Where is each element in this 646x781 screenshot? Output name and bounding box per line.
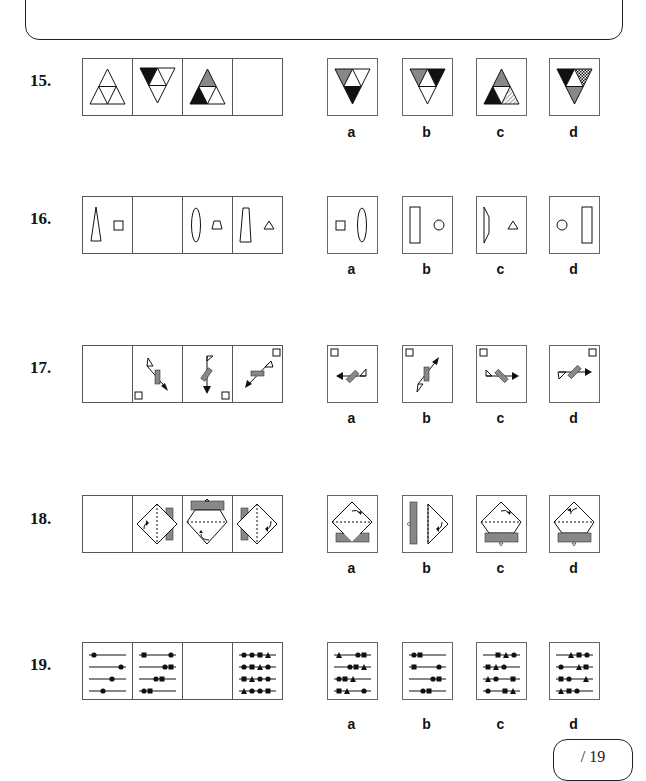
folded-diamond-figure-icon [133, 496, 182, 552]
option-a[interactable] [327, 495, 378, 553]
option-d[interactable] [549, 642, 600, 700]
option-label: d [549, 410, 598, 426]
question-number: 15. [30, 71, 51, 91]
sequence-cell [133, 643, 183, 699]
rotating-arrow-figure-icon [233, 346, 282, 402]
rotating-arrow-figure-icon [477, 346, 526, 402]
rotating-arrow-figure-icon [183, 346, 232, 402]
question-number: 17. [30, 358, 51, 378]
bead-lines-icon [477, 643, 526, 699]
option-b[interactable] [402, 642, 453, 700]
option-c[interactable] [476, 642, 527, 700]
sequence-cell [183, 346, 233, 402]
folded-diamond-figure-icon [403, 496, 452, 552]
option-a[interactable] [327, 58, 378, 116]
folded-diamond-figure-icon [477, 496, 526, 552]
triangle-square-icon [83, 197, 132, 253]
question-number: 19. [30, 655, 51, 675]
half-trapezoid-triangle-icon [477, 197, 526, 253]
answer-blank-cell [83, 346, 133, 402]
triangle-figure-icon [83, 59, 132, 115]
question-number: 18. [30, 509, 51, 529]
square-ellipse-icon [328, 197, 377, 253]
option-label: c [476, 261, 525, 277]
answer-blank-cell [133, 197, 183, 253]
option-label: b [402, 410, 451, 426]
option-label: a [327, 716, 376, 732]
option-c[interactable] [476, 58, 527, 116]
option-label: d [549, 560, 598, 576]
option-label: a [327, 410, 376, 426]
sequence-strip [82, 345, 283, 403]
option-label: b [402, 716, 451, 732]
answer-blank-cell [233, 59, 282, 115]
rotating-arrow-figure-icon [550, 346, 599, 402]
sequence-cell [133, 59, 183, 115]
option-a[interactable] [327, 196, 378, 254]
option-a[interactable] [327, 345, 378, 403]
score-text: / 19 [554, 748, 632, 766]
option-a[interactable] [327, 642, 378, 700]
trapezoid-triangle-icon [233, 197, 282, 253]
rotating-arrow-figure-icon [328, 346, 377, 402]
sequence-cell [133, 346, 183, 402]
option-d[interactable] [549, 495, 600, 553]
sequence-strip [82, 642, 283, 700]
folded-diamond-figure-icon [233, 496, 282, 552]
folded-diamond-figure-icon [328, 496, 377, 552]
answer-blank-cell [83, 496, 133, 552]
option-d[interactable] [549, 345, 600, 403]
folded-diamond-figure-icon [183, 496, 232, 552]
question-number: 16. [30, 209, 51, 229]
option-label: d [549, 124, 598, 140]
sequence-strip [82, 495, 283, 553]
answer-blank-cell [183, 643, 233, 699]
rectangle-circle-icon [403, 197, 452, 253]
option-label: d [549, 716, 598, 732]
option-label: b [402, 124, 451, 140]
option-b[interactable] [402, 196, 453, 254]
bead-lines-icon [83, 643, 132, 699]
option-label: c [476, 560, 525, 576]
option-c[interactable] [476, 345, 527, 403]
folded-diamond-figure-icon [550, 496, 599, 552]
circle-rectangle-icon [550, 197, 599, 253]
sequence-cell [83, 59, 133, 115]
option-b[interactable] [402, 495, 453, 553]
bead-lines-icon [233, 643, 282, 699]
sequence-cell [233, 346, 282, 402]
option-label: b [402, 560, 451, 576]
option-label: a [327, 560, 376, 576]
option-b[interactable] [402, 345, 453, 403]
inverted-triangle-figure-icon [328, 59, 377, 115]
triangle-figure-icon [477, 59, 526, 115]
option-d[interactable] [549, 58, 600, 116]
rotating-arrow-figure-icon [403, 346, 452, 402]
option-label: a [327, 261, 376, 277]
sequence-strip [82, 196, 283, 254]
bead-lines-icon [328, 643, 377, 699]
triangle-figure-icon [183, 59, 232, 115]
option-label: d [549, 261, 598, 277]
sequence-cell [183, 496, 233, 552]
option-d[interactable] [549, 196, 600, 254]
inverted-triangle-figure-icon [403, 59, 452, 115]
sequence-cell [233, 197, 282, 253]
option-c[interactable] [476, 196, 527, 254]
sequence-cell [83, 197, 133, 253]
option-label: b [402, 261, 451, 277]
bead-lines-icon [550, 643, 599, 699]
option-label: c [476, 716, 525, 732]
sequence-cell [233, 643, 282, 699]
inverted-triangle-figure-icon [133, 59, 182, 115]
option-label: a [327, 124, 376, 140]
sequence-cell [233, 496, 282, 552]
option-b[interactable] [402, 58, 453, 116]
sequence-cell [83, 643, 133, 699]
option-c[interactable] [476, 495, 527, 553]
option-label: c [476, 410, 525, 426]
score-box: / 19 [553, 739, 633, 781]
sequence-cell [133, 496, 183, 552]
sequence-strip [82, 58, 283, 116]
rotating-arrow-figure-icon [133, 346, 182, 402]
